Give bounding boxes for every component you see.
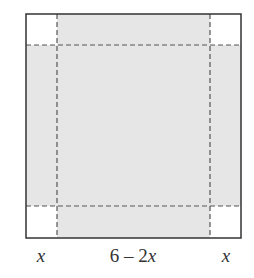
label-right-x: x [222, 246, 230, 265]
corner-square-bottom-left [26, 206, 57, 238]
box-net-diagram [0, 0, 254, 278]
label-middle-width: 6 – 2x [110, 246, 156, 265]
shaded-region [26, 14, 241, 238]
corner-square-bottom-right [210, 206, 241, 238]
corner-square-top-left [26, 14, 57, 45]
corner-square-top-right [210, 14, 241, 45]
label-left-x: x [37, 246, 45, 265]
